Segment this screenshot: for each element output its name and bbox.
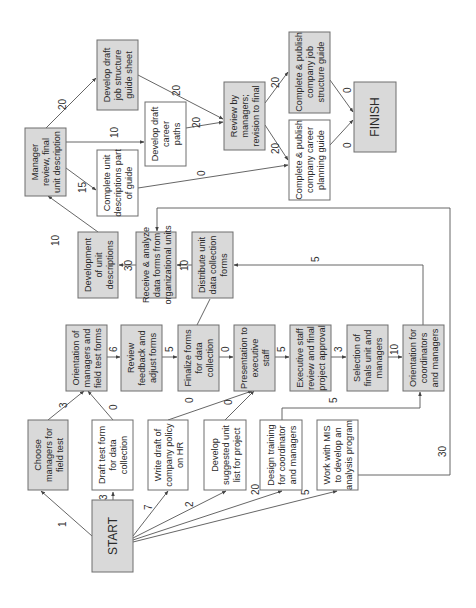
edge-finalize-distribute [197, 299, 210, 325]
weight-receive-development: 30 [123, 259, 134, 271]
weight-draft-orientation: 0 [108, 404, 119, 410]
node-review-by-managers[interactable]: Review by managers; revision to final [224, 82, 265, 150]
node-label: for data [108, 439, 118, 471]
node-label: executive [250, 339, 260, 378]
node-label: structure guide [316, 42, 326, 103]
weight-training-coord: 5 [328, 397, 339, 403]
node-label: of guide [124, 167, 134, 200]
edge-orientation-coord-distribute [234, 265, 423, 325]
node-finalize-forms[interactable]: Finalize forms for data collection [178, 325, 219, 391]
node-receive-analyze[interactable]: Receive & analyze data forms from organi… [136, 225, 176, 305]
edge-job-guide-finish [330, 80, 353, 112]
node-draft-test-form[interactable]: Draft test form for data collection [92, 420, 133, 490]
node-label: field test forms [93, 328, 103, 388]
edge-career-guide-finish [330, 120, 353, 145]
node-selection-finals[interactable]: Selection of finals unit and managers [347, 325, 388, 391]
node-work-with-mis[interactable]: Work with MIS to develop an analysis pro… [317, 420, 358, 490]
edge-development-manager-review [48, 196, 98, 232]
node-label: company policy [164, 423, 174, 487]
edge-start-choose-managers [41, 491, 92, 536]
node-draft-career-paths[interactable]: Develop draft career paths [145, 102, 186, 166]
node-distribute-forms[interactable]: Distribute unit data collection forms [192, 232, 233, 298]
node-label: Executive staff [295, 328, 305, 388]
node-label: and managers [430, 328, 440, 387]
node-draft-job-structure[interactable]: Develop draft job structure guide sheet [97, 40, 138, 110]
node-label: for data [194, 342, 204, 374]
node-label: forms [219, 253, 229, 276]
node-label: project approval [317, 325, 327, 390]
node-label: Work with MIS [322, 425, 332, 484]
node-label: staff [261, 349, 271, 367]
node-label: Orientation of [71, 330, 81, 386]
node-label: managers [374, 337, 384, 378]
nodes: START Choose managers for field test Dra… [25, 32, 444, 572]
weight-selection-coord: 10 [389, 343, 400, 355]
node-label: planning guide [316, 130, 326, 190]
node-label: Review [126, 343, 136, 373]
node-exec-review[interactable]: Executive staff review and final project… [290, 325, 331, 391]
node-finish[interactable]: FINISH [354, 82, 396, 152]
node-label: Development [83, 237, 93, 292]
node-label: Develop draft [150, 106, 160, 161]
node-label: data collection [208, 236, 218, 295]
node-manager-review-final[interactable]: Manager review, final unit description [25, 128, 66, 196]
node-label: managers and [82, 329, 92, 388]
weight-review-finalize: 5 [164, 346, 175, 352]
node-label: job structure [113, 50, 123, 102]
node-label: company job [305, 46, 315, 98]
node-design-training[interactable]: Design training for coordinator and mana… [260, 420, 302, 490]
node-review-feedback[interactable]: Review feedback and adjust forms [121, 325, 162, 391]
node-label: Selection of [352, 334, 362, 382]
weight-review-job-guide: 20 [270, 76, 281, 88]
node-label: and managers [288, 425, 298, 484]
node-orientation-coord[interactable]: Orientation for coordinators and manager… [403, 325, 444, 391]
node-label: Finalize forms [183, 329, 193, 387]
node-label: revision to final [251, 85, 261, 146]
weight-review-career-guide: 20 [270, 142, 281, 154]
node-label: list for project [232, 427, 242, 482]
weight-coord-distribute: 5 [310, 256, 321, 262]
network-diagram: 1 3 7 2 20 5 3 0 6 5 0 0 0 5 3 10 5 5 30… [0, 0, 476, 608]
edge-manager-job-structure [46, 78, 96, 128]
node-orientation-field[interactable]: Orientation of managers and field test f… [66, 325, 107, 391]
node-label: for coordinator [277, 425, 287, 484]
node-presentation[interactable]: Presentation to executive staff [234, 325, 275, 391]
weight-finalize-presentation: 0 [220, 346, 231, 352]
node-publish-job-guide[interactable]: Complete & publish company job structure… [289, 32, 330, 113]
weight-presentation-exec: 5 [276, 346, 287, 352]
node-label: Presentation to [239, 327, 249, 389]
node-label: unit description [52, 131, 62, 193]
node-label: descriptions [105, 240, 115, 289]
weight-orientation-review: 6 [108, 346, 119, 352]
node-label: managers; [240, 94, 250, 137]
node-start[interactable]: START [92, 500, 133, 572]
weight-start-policy: 7 [143, 504, 154, 510]
node-label: collection [205, 339, 215, 377]
node-label: Review by [229, 94, 239, 137]
weight-start-choose: 1 [57, 521, 68, 527]
node-label: Orientation for [408, 329, 418, 387]
node-label: Complete & publish [294, 120, 304, 200]
node-label: on HR [175, 442, 185, 468]
weight-start-draft: 3 [98, 494, 109, 500]
node-label: Write draft of [153, 428, 163, 481]
weight-job-guide-finish: 0 [342, 87, 353, 93]
node-choose-managers[interactable]: Choose managers for field test [28, 420, 68, 490]
node-label: Distribute unit [197, 236, 207, 293]
node-label: adjust forms [148, 333, 158, 383]
node-label: field test [55, 437, 65, 472]
node-label: data forms from [152, 232, 162, 297]
node-label: managers for [44, 428, 54, 482]
node-label: coordinators [419, 332, 429, 383]
node-label: Choose [33, 439, 43, 471]
node-complete-unit-desc[interactable]: Complete unit descriptions part of guide [97, 149, 138, 217]
node-write-policy[interactable]: Write draft of company policy on HR [148, 420, 188, 490]
node-label: analysis program [344, 420, 354, 490]
node-label: feedback and [137, 330, 147, 385]
node-label: career [161, 121, 171, 147]
node-development-unit-desc[interactable]: Development of unit descriptions [78, 232, 118, 298]
weight-manager-career: 10 [109, 126, 120, 138]
node-publish-career-guide[interactable]: Complete & publish company career planni… [289, 120, 330, 200]
node-develop-unit-list[interactable]: Develop suggested unit list for project [204, 420, 246, 490]
weight-unitlist-presentation: 0 [223, 399, 234, 405]
